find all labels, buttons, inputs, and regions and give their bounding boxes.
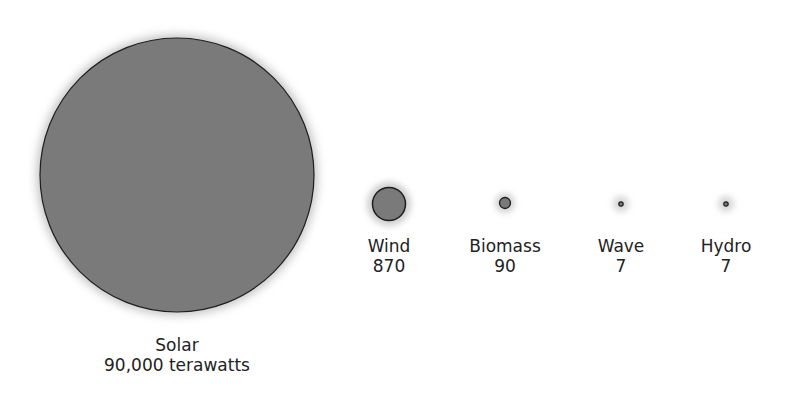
label-wave-value: 7 [598,256,645,276]
label-biomass: Biomass 90 [469,236,540,276]
label-wave: Wave 7 [598,236,645,276]
label-wave-name: Wave [598,236,645,256]
bubble-biomass [495,193,515,213]
bubble-wave [613,196,629,212]
label-wind-name: Wind [368,236,411,256]
label-hydro-name: Hydro [701,236,752,256]
label-hydro-value: 7 [701,256,752,276]
label-solar: Solar 90,000 terawatts [104,335,250,375]
label-wind-value: 870 [368,256,411,276]
label-biomass-name: Biomass [469,236,540,256]
label-solar-value: 90,000 terawatts [104,355,250,375]
label-hydro: Hydro 7 [701,236,752,276]
label-wind: Wind 870 [368,236,411,276]
label-biomass-value: 90 [469,256,540,276]
bubble-hydro [718,196,734,212]
bubble-wind [367,182,411,226]
label-solar-name: Solar [104,335,250,355]
bubble-solar [36,34,318,316]
